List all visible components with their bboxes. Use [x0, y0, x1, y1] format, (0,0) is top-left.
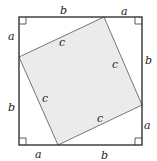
label-left-b: b: [8, 101, 15, 114]
right-angle-marker-top-left: [19, 17, 26, 24]
label-bottom-b: b: [101, 149, 108, 161]
right-angle-marker-bottom-left: [19, 138, 26, 145]
label-top-a: a: [121, 5, 128, 18]
right-angle-marker-bottom-right: [135, 138, 142, 145]
label-c-left: c: [42, 92, 48, 105]
label-right-b: b: [145, 54, 152, 67]
label-c-top: c: [59, 36, 65, 49]
label-bottom-a: a: [35, 148, 42, 161]
pythagorean-diagram: b a b a a b a b c c c c: [0, 0, 157, 161]
inner-square-c: [19, 17, 142, 145]
label-c-bottom: c: [97, 112, 103, 125]
right-angle-marker-top-right: [135, 17, 142, 24]
label-left-a: a: [8, 30, 15, 43]
label-right-a: a: [144, 119, 151, 132]
label-c-right: c: [112, 58, 118, 71]
label-top-b: b: [60, 4, 67, 17]
